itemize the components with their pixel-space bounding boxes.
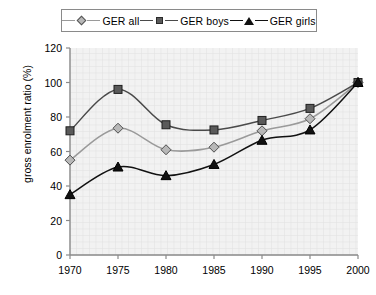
square-marker-icon [306,104,314,112]
y-tick-label: 0 [56,249,62,261]
legend-line-ger-boys-2 [165,20,178,21]
legend-label-ger-boys: GER boys [180,15,229,27]
x-tick-label: 1995 [298,264,322,276]
legend-line-ger-boys [140,20,153,21]
y-tick-label: 100 [44,77,62,89]
triangle-marker-icon [245,17,253,25]
plot-area: 0204060801001201970197519801985199019952… [0,38,376,295]
square-marker-icon [114,85,122,93]
y-tick-label: 20 [50,215,62,227]
square-marker-icon [66,127,74,135]
x-tick-label: 1980 [154,264,178,276]
x-tick-label: 1975 [106,264,130,276]
diamond-marker-icon [77,17,85,25]
square-marker-icon [210,126,218,134]
x-tick-label: 1985 [202,264,226,276]
y-tick-label: 80 [50,111,62,123]
legend-item-ger-girls: GER girls [230,15,316,27]
square-marker-icon [162,121,170,129]
chart-figure: GER all GER boys GER girls gross enrolme… [0,0,376,295]
legend-line-ger-girls [230,20,243,21]
x-tick-label: 2000 [346,264,370,276]
chart-legend: GER all GER boys GER girls [61,9,317,32]
y-tick-label: 40 [50,180,62,192]
square-marker-icon [155,17,163,25]
x-tick-label: 1990 [250,264,274,276]
legend-line-ger-all [62,20,75,21]
x-tick-label: 1970 [58,264,82,276]
legend-label-ger-all: GER all [102,15,139,27]
legend-line-ger-girls-2 [255,20,268,21]
legend-item-ger-boys: GER boys [140,15,229,27]
legend-line-ger-all-2 [87,20,100,21]
legend-item-ger-all: GER all [62,15,139,27]
legend-label-ger-girls: GER girls [270,15,316,27]
square-marker-icon [258,116,266,124]
y-tick-label: 60 [50,146,62,158]
y-tick-label: 120 [44,42,62,54]
